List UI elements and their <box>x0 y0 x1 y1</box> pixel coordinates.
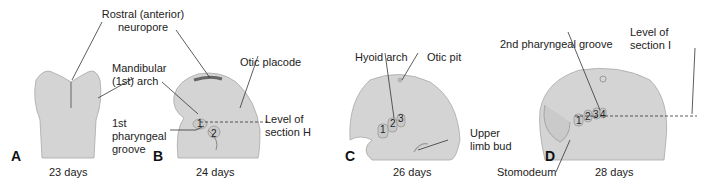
section-h-label: Level of section H <box>265 113 311 139</box>
svg-text:2: 2 <box>585 111 591 122</box>
section-i-label: Level of section I <box>630 26 671 52</box>
svg-text:1: 1 <box>197 118 203 129</box>
caption-23-days: 23 days <box>49 166 88 178</box>
second-pharyngeal-groove-label: 2nd pharyngeal groove <box>500 38 613 51</box>
svg-text:4: 4 <box>600 109 606 120</box>
svg-text:2: 2 <box>211 128 217 139</box>
panel-letter-b: B <box>153 148 163 164</box>
upper-limb-bud-label: Upper limb bud <box>470 127 512 153</box>
caption-28-days: 28 days <box>595 166 634 178</box>
panel-letter-c: C <box>345 148 355 164</box>
embryo-a <box>35 71 101 158</box>
svg-text:3: 3 <box>398 113 404 124</box>
svg-text:1: 1 <box>576 115 582 126</box>
rostral-neuropore-label: Rostral (anterior) neuropore <box>98 8 188 34</box>
mandibular-arch-label: Mandibular (1st) arch <box>112 62 166 88</box>
svg-text:3: 3 <box>593 109 599 120</box>
otic-placode-label: Otic placode <box>240 56 301 69</box>
caption-24-days: 24 days <box>196 166 235 178</box>
svg-text:1: 1 <box>380 124 386 135</box>
caption-26-days: 26 days <box>393 166 432 178</box>
stomodeum-label: Stomodeum <box>497 166 556 179</box>
svg-text:2: 2 <box>390 118 396 129</box>
hyoid-arch-label: Hyoid arch <box>355 51 408 64</box>
otic-pit-label: Otic pit <box>427 51 461 64</box>
panel-letter-a: A <box>11 148 21 164</box>
panel-letter-d: D <box>545 148 555 164</box>
